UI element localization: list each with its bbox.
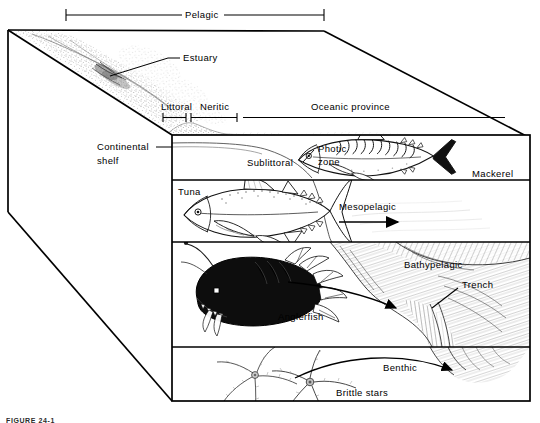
continental-shelf-label-line2: shelf <box>97 155 119 166</box>
oceanic-province-label: Oceanic province <box>311 101 390 112</box>
mesopelagic-label: Mesopelagic <box>339 201 396 212</box>
pelagic-label: Pelagic <box>185 9 219 20</box>
bathypelagic-zone-panel: Anglerfish <box>172 241 530 347</box>
sublittoral-label: Sublittoral <box>247 157 293 168</box>
littoral-label: Littoral <box>161 101 192 112</box>
brittle-stars-label: Brittle stars <box>336 387 388 398</box>
bathypelagic-label: Bathypelagic <box>404 259 463 270</box>
benthic-label: Benthic <box>383 362 417 373</box>
continental-shelf-label-line1: Continental <box>97 141 149 152</box>
photic-zone-label-line1: Photic <box>318 143 347 154</box>
trench-label: Trench <box>462 279 493 290</box>
neritic-label: Neritic <box>200 101 229 112</box>
estuary-label: Estuary <box>183 52 218 63</box>
anglerfish-label: Anglerfish <box>278 311 324 322</box>
tuna-label: Tuna <box>178 186 201 197</box>
figure-canvas: Pelagic <box>0 0 540 423</box>
figure-caption: FIGURE 24-1 <box>6 416 55 423</box>
photic-zone-label-line2: zone <box>318 156 340 167</box>
ocean-zones-figure: Pelagic <box>0 0 540 423</box>
mackerel-label: Mackerel <box>472 168 513 179</box>
front-face: Mackerel Photic zone Sublittoral <box>172 123 530 417</box>
